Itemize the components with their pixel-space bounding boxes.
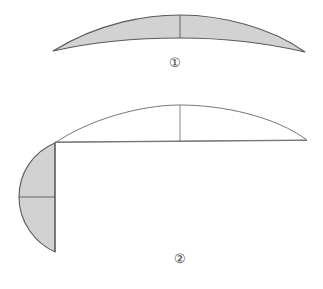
diagram-canvas: ① ② bbox=[0, 0, 323, 289]
figure-1-label: ① bbox=[169, 56, 181, 69]
figure-2-group bbox=[19, 105, 307, 252]
figure-1-group bbox=[53, 15, 305, 52]
geometry-figures-svg bbox=[0, 0, 323, 289]
figure-2-shaded-lune-shape bbox=[19, 143, 55, 252]
figure-2-upper-lune-shape bbox=[55, 105, 307, 143]
figure-1-lune-shape bbox=[53, 15, 305, 52]
figure-2-label: ② bbox=[174, 252, 186, 265]
